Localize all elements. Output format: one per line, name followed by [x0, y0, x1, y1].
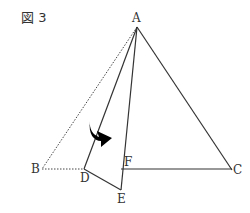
label-D: D — [80, 172, 90, 184]
label-E: E — [117, 193, 126, 205]
label-A: A — [132, 12, 141, 24]
label-F: F — [124, 156, 132, 168]
label-B: B — [31, 163, 40, 175]
geometry-diagram — [0, 0, 250, 213]
segment-AB-dotted — [42, 27, 137, 169]
segment-AC — [137, 27, 232, 170]
segment-AD — [84, 27, 137, 169]
label-C: C — [233, 164, 242, 176]
